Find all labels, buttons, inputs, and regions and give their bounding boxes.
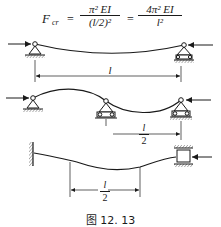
fraction-numerator: l bbox=[139, 123, 149, 133]
fixed-wall-support-left bbox=[29, 142, 33, 166]
fraction-denominator: 2 bbox=[100, 193, 110, 203]
span-label-l: l bbox=[103, 64, 117, 76]
buckled-beam-curve bbox=[35, 44, 184, 53]
span-label-half-l-diagram-2: l 2 bbox=[139, 123, 149, 146]
roller-support-right bbox=[174, 43, 194, 63]
roller-support-middle bbox=[95, 99, 117, 118]
figure-caption: 图 12. 13 bbox=[0, 211, 221, 227]
column-buckling-diagrams bbox=[0, 0, 221, 227]
fraction-denominator: 2 bbox=[139, 136, 149, 146]
roller-support-right bbox=[170, 98, 192, 120]
sliding-guide-support-right bbox=[174, 145, 193, 167]
fraction-numerator: l bbox=[100, 180, 110, 190]
span-label-half-l-diagram-3: l 2 bbox=[100, 180, 110, 203]
buckled-beam-curve bbox=[34, 153, 176, 170]
diagram-3-fixed-guided bbox=[29, 142, 212, 197]
